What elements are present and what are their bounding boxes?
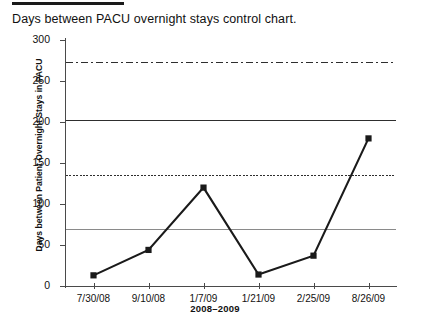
x-tick <box>204 283 205 289</box>
x-tick <box>314 283 315 289</box>
chart-title: Days between PACU overnight stays contro… <box>12 12 297 26</box>
y-tick-label: 0 <box>0 279 58 291</box>
y-tick-label: 150 <box>0 156 58 168</box>
data-point <box>365 135 371 141</box>
y-tick <box>60 122 66 123</box>
y-tick-label: 100 <box>0 197 58 209</box>
data-point <box>90 272 96 278</box>
y-tick-label: 300 <box>0 33 58 45</box>
y-tick <box>60 245 66 246</box>
x-tick <box>369 283 370 289</box>
y-tick <box>60 204 66 205</box>
y-tick-label: 50 <box>0 238 58 250</box>
x-axis-line <box>65 286 397 287</box>
x-axis-title: 2008–2009 <box>0 303 430 314</box>
center-line <box>66 229 396 230</box>
control-chart: Days between PACU overnight stays contro… <box>0 0 430 318</box>
header-rule <box>12 2 124 5</box>
y-tick <box>60 163 66 164</box>
series-markers <box>90 135 371 278</box>
x-tick <box>259 283 260 289</box>
upper-limit-line <box>66 62 396 63</box>
data-point <box>255 271 261 277</box>
y-tick <box>60 40 66 41</box>
data-point <box>200 185 206 191</box>
series-line <box>94 138 369 275</box>
y-tick <box>60 286 66 287</box>
x-tick <box>149 283 150 289</box>
data-point <box>145 247 151 253</box>
data-point <box>310 253 316 259</box>
upper-warning-line <box>66 120 396 122</box>
x-tick <box>94 283 95 289</box>
y-tick-label: 250 <box>0 74 58 86</box>
lower-warning-line <box>66 175 396 176</box>
y-tick-label: 200 <box>0 115 58 127</box>
y-tick <box>60 81 66 82</box>
